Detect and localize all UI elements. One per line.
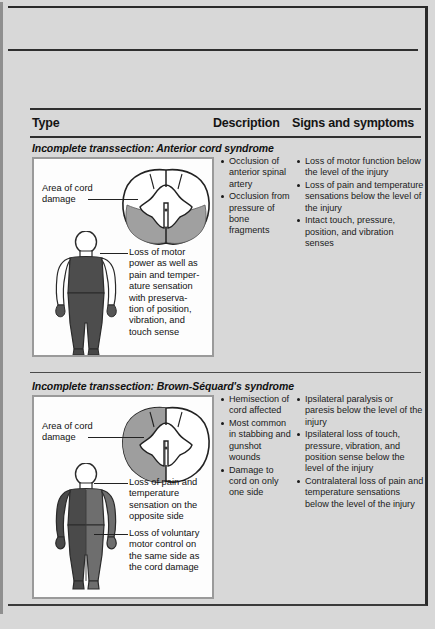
callout-line: power as well as [129, 258, 213, 269]
signs-item: Intact touch, pressure, position, and vi… [296, 215, 424, 249]
leader-line-body-b [94, 534, 128, 535]
header-rule-top [30, 108, 421, 110]
column-header-description: Description [213, 116, 280, 130]
leader-line-body [100, 253, 128, 254]
column-header-type: Type [32, 116, 59, 130]
callout-area-of-cord-damage: Area of cord damage [42, 183, 104, 206]
leader-line-cord [88, 199, 138, 200]
callout-line: the cord damage [129, 562, 214, 573]
callout-line: Loss of motor [129, 247, 213, 258]
callout-line: vibration, and [129, 315, 213, 326]
table-content: Type Description Signs and symptoms Inco… [30, 108, 430, 138]
callout-line: opposite side [129, 511, 214, 522]
callout-line: ature sensation [129, 281, 213, 292]
callout-line: Area of cord [42, 183, 104, 194]
illustration-panel-anterior: Area of cord damage [32, 157, 214, 357]
callout-line: with preserva- [129, 293, 213, 304]
callout-line: the same side as [129, 551, 214, 562]
callout-line: damage [42, 432, 104, 443]
signs-item: Ipsilateral loss of touch, pressure, vib… [296, 429, 424, 474]
section-title: Incomplete transsection: Brown-Séquard's… [32, 380, 294, 392]
description-item: Most common in stabbing and gunshot woun… [220, 418, 292, 463]
callout-line: tion of position, [129, 304, 213, 315]
top-horizontal-rule [8, 49, 418, 51]
table-header: Type Description Signs and symptoms [30, 108, 430, 138]
signs-item: Loss of pain and temperature sensations … [296, 180, 424, 214]
page-sheet: Type Description Signs and symptoms Inco… [0, 0, 435, 629]
signs-item: Loss of motor function below the level o… [296, 156, 424, 179]
callout-line: pain and temper- [129, 270, 213, 281]
callout-line: motor control on [129, 539, 214, 550]
description-item: Occlusion from pressure of bone fragment… [220, 191, 292, 236]
callout-line: temperature [129, 488, 214, 499]
description-list-brown-sequard: Hemisection of cord affected Most common… [220, 394, 292, 500]
signs-list-anterior: Loss of motor function below the level o… [296, 156, 424, 251]
description-list-anterior: Occlusion of anterior spinal artery Occl… [220, 156, 292, 238]
callout-loss-of-pain-and-temperature: Loss of pain and temperature sensation o… [129, 477, 214, 523]
leader-line-cord [88, 437, 144, 438]
spinal-cord-cross-section-anterior [118, 165, 214, 249]
column-header-signs-and-symptoms: Signs and symptoms [292, 116, 414, 130]
description-item: Occlusion of anterior spinal artery [220, 156, 292, 190]
leader-line-body-a [94, 483, 128, 484]
callout-area-of-cord-damage: Area of cord damage [42, 421, 104, 444]
signs-item: Contralateral loss of pain and temperatu… [296, 476, 424, 510]
illustration-panel-brown-sequard: Area of cord damage [32, 395, 214, 599]
signs-list-brown-sequard: Ipsilateral paralysis or paresis below t… [296, 394, 424, 511]
callout-line: Loss of voluntary [129, 528, 214, 539]
callout-line: damage [42, 194, 104, 205]
signs-item: Ipsilateral paralysis or paresis below t… [296, 394, 424, 428]
callout-loss-of-voluntary-motor-control: Loss of voluntary motor control on the s… [129, 528, 214, 574]
callout-line: Loss of pain and [129, 477, 214, 488]
description-item: Damage to cord on only one side [220, 465, 292, 499]
callout-loss-of-motor-power: Loss of motor power as well as pain and … [129, 247, 213, 338]
section-title: Incomplete transsection: Anterior cord s… [32, 142, 274, 154]
description-item: Hemisection of cord affected [220, 394, 292, 417]
header-rule-bottom [30, 136, 421, 138]
body-figure-anterior [40, 231, 132, 356]
callout-line: Area of cord [42, 421, 104, 432]
callout-line: sensation on the [129, 500, 214, 511]
section-divider-rule [30, 372, 421, 373]
spinal-cord-cross-section-hemisection [118, 403, 214, 487]
page-frame: Type Description Signs and symptoms Inco… [8, 6, 428, 606]
callout-line: touch sense [129, 327, 213, 338]
